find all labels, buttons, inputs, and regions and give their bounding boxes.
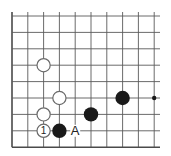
black-stone [52,124,66,138]
point-label-A: A [70,123,80,138]
white-stone [53,91,66,104]
white-stone-icon [53,91,66,104]
black-stone-icon [115,91,129,105]
black-stone [84,107,98,121]
go-board: 1 A [0,0,171,156]
markers: A [70,123,80,138]
white-stone-icon [37,108,50,121]
white-stone [37,59,50,72]
white-stone-icon [37,59,50,72]
stone-move-number: 1 [41,125,47,136]
grid-lines [12,12,160,147]
point-label-text: A [71,123,80,138]
black-stone-icon [84,107,98,121]
white-stone [37,108,50,121]
white-stone-1: 1 [37,124,50,137]
black-stone [115,91,129,105]
star-points [152,96,156,100]
star-point-icon [152,96,156,100]
black-stone-icon [52,124,66,138]
